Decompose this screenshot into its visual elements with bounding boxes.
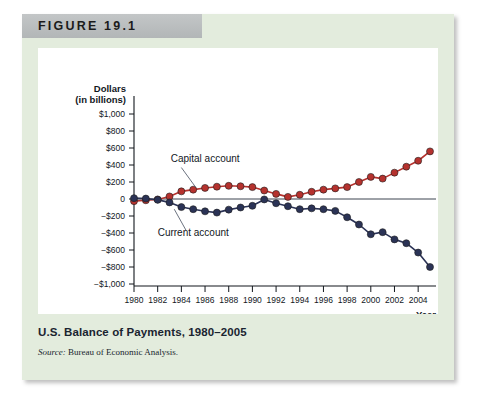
y-tick-label: 0: [120, 194, 125, 204]
data-point: [320, 186, 327, 193]
data-point: [190, 186, 197, 193]
x-tick-label: 1994: [290, 295, 309, 305]
data-point: [332, 185, 339, 192]
x-tick-label: 1992: [267, 295, 286, 305]
y-tick-label: −$1,000: [94, 279, 125, 289]
capital-account-label: Capital account: [171, 153, 240, 164]
y-axis-title-line1: Dollars: [94, 83, 126, 94]
y-tick-label: $200: [106, 177, 125, 187]
data-point: [415, 157, 422, 164]
data-point: [261, 196, 268, 203]
data-point: [403, 163, 410, 170]
data-point: [178, 188, 185, 195]
y-tick-label: $800: [106, 126, 125, 136]
figure-panel: FIGURE 19.1 $1,000$800$600$400$2000−$200…: [22, 14, 454, 380]
y-tick-label: $400: [106, 160, 125, 170]
data-point: [166, 199, 173, 206]
data-point: [296, 191, 303, 198]
data-point: [178, 204, 185, 211]
y-tick-label: −$200: [101, 211, 125, 221]
x-axis-tick-labels: 1980198219841986198819901992199419961998…: [125, 295, 428, 305]
data-point: [249, 202, 256, 209]
figure-number-label: FIGURE 19.1: [38, 19, 137, 33]
data-point: [379, 229, 386, 236]
data-point: [403, 240, 410, 247]
y-axis-tick-labels: $1,000$800$600$400$2000−$200−$400−$600−$…: [94, 109, 125, 289]
data-point: [273, 200, 280, 207]
x-tick-label: 2002: [385, 295, 404, 305]
x-tick-label: 1990: [243, 295, 262, 305]
data-point: [332, 207, 339, 214]
data-point: [367, 173, 374, 180]
x-tick-label: 1996: [314, 295, 333, 305]
data-point: [344, 184, 351, 191]
data-point: [308, 188, 315, 195]
data-point: [142, 195, 149, 202]
source-text: Bureau of Economic Analysis.: [66, 347, 178, 357]
y-tick-label: −$400: [101, 228, 125, 238]
data-point: [261, 187, 268, 194]
data-point: [415, 249, 422, 256]
data-point: [391, 169, 398, 176]
data-point: [355, 179, 362, 186]
data-point: [225, 182, 232, 189]
series-points: [131, 148, 434, 271]
data-point: [249, 184, 256, 191]
balance-of-payments-chart: $1,000$800$600$400$2000−$200−$400−$600−$…: [38, 48, 438, 314]
chart-area: $1,000$800$600$400$2000−$200−$400−$600−$…: [38, 48, 438, 314]
figure-number-bar: FIGURE 19.1: [22, 14, 202, 38]
data-point: [344, 214, 351, 221]
data-point: [308, 205, 315, 212]
figure-container: FIGURE 19.1 $1,000$800$600$400$2000−$200…: [0, 0, 480, 408]
y-axis-title-line2: (in billions): [75, 94, 126, 105]
data-point: [202, 208, 209, 215]
data-point: [213, 183, 220, 190]
data-point: [391, 236, 398, 243]
data-point: [273, 190, 280, 197]
x-tick-label: 1980: [125, 295, 144, 305]
data-point: [427, 148, 434, 155]
source-prefix: Source:: [38, 347, 66, 357]
x-tick-label: 1998: [338, 295, 357, 305]
data-point: [379, 175, 386, 182]
current-account-label: Current account: [158, 227, 229, 238]
data-point: [154, 196, 161, 203]
caption-source: Source: Bureau of Economic Analysis.: [38, 347, 438, 357]
data-point: [131, 195, 138, 202]
y-tick-label: −$800: [101, 262, 125, 272]
data-point: [367, 231, 374, 238]
data-point: [355, 221, 362, 228]
data-point: [284, 193, 291, 200]
x-axis-title: Year: [416, 309, 436, 314]
y-tick-label: $600: [106, 143, 125, 153]
figure-caption: U.S. Balance of Payments, 1980–2005 Sour…: [38, 326, 438, 357]
y-tick-label: $1,000: [99, 109, 125, 119]
data-point: [213, 209, 220, 216]
data-point: [427, 264, 434, 271]
data-point: [202, 184, 209, 191]
data-point: [284, 203, 291, 210]
x-tick-label: 1984: [172, 295, 191, 305]
x-axis-ticks: [134, 286, 418, 292]
data-point: [225, 206, 232, 213]
data-point: [237, 183, 244, 190]
data-point: [237, 204, 244, 211]
data-point: [320, 206, 327, 213]
x-tick-label: 1986: [196, 295, 215, 305]
y-tick-label: −$600: [101, 245, 125, 255]
x-tick-label: 1988: [219, 295, 238, 305]
caption-title: U.S. Balance of Payments, 1980–2005: [38, 326, 438, 338]
x-tick-label: 2004: [409, 295, 428, 305]
capital-account-leader-line: [181, 168, 195, 188]
x-tick-label: 2000: [361, 295, 380, 305]
x-tick-label: 1982: [148, 295, 167, 305]
data-point: [296, 206, 303, 213]
data-point: [190, 206, 197, 213]
